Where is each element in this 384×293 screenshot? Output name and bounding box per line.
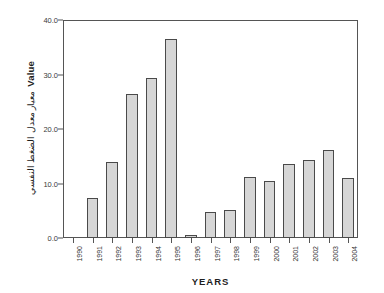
- bar: [342, 178, 353, 238]
- bar: [224, 210, 235, 238]
- x-tick-mark: [93, 238, 94, 243]
- x-tick-mark: [171, 238, 172, 243]
- y-tick-mark: [58, 183, 63, 184]
- x-tick-mark: [73, 238, 74, 243]
- x-tick-label: 1996: [194, 246, 201, 262]
- bar: [205, 212, 216, 238]
- bar: [323, 150, 334, 238]
- x-tick-mark: [309, 238, 310, 243]
- bar: [165, 39, 176, 238]
- x-axis-title: YEARS: [63, 276, 358, 287]
- x-tick-mark: [112, 238, 113, 243]
- y-tick-label: 0.0: [24, 234, 58, 243]
- x-tick-label: 2000: [273, 246, 280, 262]
- x-tick-mark: [250, 238, 251, 243]
- x-tick-label: 1992: [115, 246, 122, 262]
- x-tick-mark: [152, 238, 153, 243]
- x-tick-mark: [348, 238, 349, 243]
- bar: [244, 177, 255, 238]
- x-tick-label: 1998: [233, 246, 240, 262]
- bar-chart: معيار معدل الضغط النفسيValue 0.010.020.0…: [0, 0, 384, 293]
- bar: [303, 160, 314, 238]
- bar: [106, 162, 117, 238]
- x-tick-mark: [270, 238, 271, 243]
- x-tick-label: 1994: [155, 246, 162, 262]
- x-tick-label: 1990: [76, 246, 83, 262]
- bar: [264, 181, 275, 238]
- plot-area: [63, 20, 358, 238]
- y-tick-label: 20.0: [24, 125, 58, 134]
- bar: [87, 198, 98, 238]
- y-axis-ticks: 0.010.020.030.040.0: [10, 0, 58, 293]
- x-tick-mark: [191, 238, 192, 243]
- x-tick-label: 1993: [135, 246, 142, 262]
- x-tick-label: 1991: [96, 246, 103, 262]
- x-tick-mark: [230, 238, 231, 243]
- y-tick-mark: [58, 238, 63, 239]
- x-tick-label: 2001: [292, 246, 299, 262]
- bar: [146, 78, 157, 238]
- x-tick-mark: [132, 238, 133, 243]
- x-tick-mark: [329, 238, 330, 243]
- x-tick-mark: [211, 238, 212, 243]
- x-tick-label: 2002: [312, 246, 319, 262]
- y-tick-mark: [58, 74, 63, 75]
- x-tick-label: 1995: [174, 246, 181, 262]
- y-tick-mark: [58, 20, 63, 21]
- y-tick-mark: [58, 129, 63, 130]
- y-tick-label: 10.0: [24, 179, 58, 188]
- x-tick-label: 2003: [332, 246, 339, 262]
- bar: [283, 164, 294, 238]
- x-tick-label: 2004: [351, 246, 358, 262]
- bar: [126, 94, 137, 238]
- x-tick-label: 1997: [214, 246, 221, 262]
- y-tick-label: 40.0: [24, 16, 58, 25]
- x-tick-label: 1999: [253, 246, 260, 262]
- x-tick-mark: [289, 238, 290, 243]
- y-tick-label: 30.0: [24, 70, 58, 79]
